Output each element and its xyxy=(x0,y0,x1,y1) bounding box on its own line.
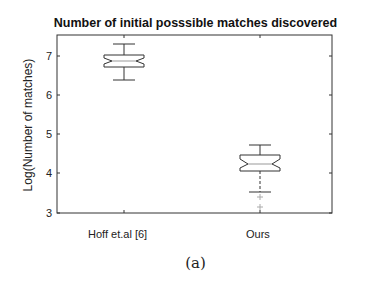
x-tick-label-hoff: Hoff et.al [6] xyxy=(88,228,147,240)
svg-text:6: 6 xyxy=(46,89,52,101)
svg-text:4: 4 xyxy=(46,167,52,179)
y-ticks xyxy=(57,35,332,213)
figure-caption: (a) xyxy=(0,254,369,272)
x-tick-label-ours: Ours xyxy=(246,228,270,240)
plot-frame xyxy=(57,35,332,213)
svg-text:5: 5 xyxy=(46,128,52,140)
box-ours xyxy=(240,145,280,210)
outliers xyxy=(257,194,263,210)
svg-text:7: 7 xyxy=(46,50,52,62)
box-hoff xyxy=(104,44,144,80)
svg-text:3: 3 xyxy=(46,207,52,219)
y-tick-labels: 3 4 5 6 7 xyxy=(46,50,52,219)
